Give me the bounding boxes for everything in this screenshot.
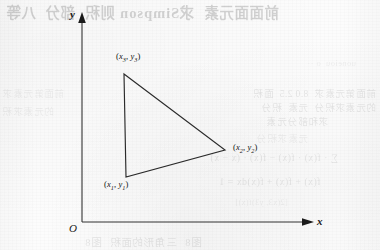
vertex-label-1: (x1, y1) bbox=[104, 179, 128, 191]
y-axis-arrowhead bbox=[78, 12, 86, 23]
origin-label: O bbox=[69, 222, 77, 234]
vertex-label-3: (x3, y3) bbox=[116, 51, 140, 63]
v2-close-paren: ) bbox=[255, 142, 258, 152]
vertex-label-2: (x2, y2) bbox=[233, 142, 257, 154]
coordinate-diagram bbox=[0, 0, 380, 250]
y-axis-label: y bbox=[70, 8, 75, 20]
v3-close-paren: ) bbox=[138, 51, 141, 61]
scanned-page: 前面面元素 求Simpson 则积 部分 八等 uoneiou o ·· 前面第… bbox=[0, 0, 380, 250]
v1-close-paren: ) bbox=[126, 179, 129, 189]
triangle-shape bbox=[124, 74, 225, 177]
x-axis-label: x bbox=[317, 215, 323, 227]
x-axis-arrowhead bbox=[302, 218, 314, 226]
